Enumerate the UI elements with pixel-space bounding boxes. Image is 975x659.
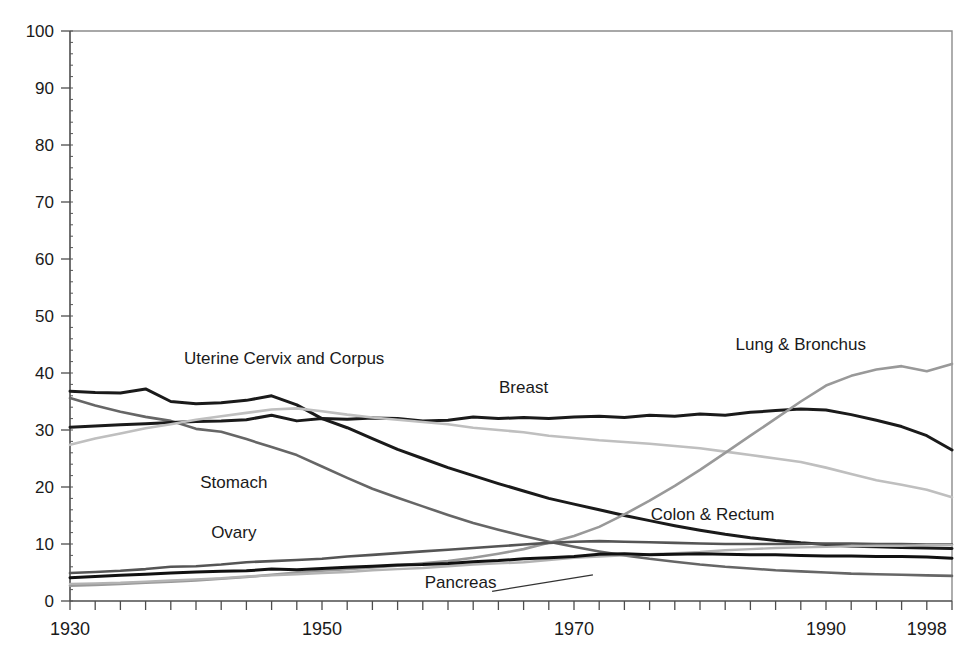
y-tick-label-100: 100	[26, 22, 54, 41]
y-tick-label-0: 0	[45, 592, 54, 611]
plot-frame	[70, 31, 952, 601]
y-tick-label-30: 30	[35, 421, 54, 440]
series-label-stomach: Stomach	[200, 473, 267, 492]
y-tick-label-40: 40	[35, 364, 54, 383]
series-label-ovary: Ovary	[211, 523, 257, 542]
y-tick-label-70: 70	[35, 193, 54, 212]
y-tick-label-10: 10	[35, 535, 54, 554]
y-tick-label-80: 80	[35, 136, 54, 155]
series-label-uterine-cervix-and-corpus: Uterine Cervix and Corpus	[184, 349, 384, 368]
y-tick-label-90: 90	[35, 79, 54, 98]
x-tick-label-1990: 1990	[806, 619, 846, 639]
chart-svg: 0102030405060708090100193019501970199019…	[0, 0, 975, 659]
series-label-lung-bronchus: Lung & Bronchus	[736, 335, 866, 354]
series-line-uterine-cervix-and-corpus	[70, 389, 952, 549]
series-label-colon-rectum: Colon & Rectum	[651, 505, 775, 524]
pancreas-leader	[492, 575, 593, 592]
x-tick-label-1950: 1950	[302, 619, 342, 639]
x-tick-label-1998: 1998	[907, 619, 947, 639]
series-label-pancreas: Pancreas	[425, 573, 497, 592]
y-tick-label-50: 50	[35, 307, 54, 326]
cancer-mortality-line-chart: 0102030405060708090100193019501970199019…	[0, 0, 975, 659]
series-label-breast: Breast	[499, 378, 548, 397]
x-tick-label-1930: 1930	[50, 619, 90, 639]
x-tick-label-1970: 1970	[554, 619, 594, 639]
y-tick-label-60: 60	[35, 250, 54, 269]
y-tick-label-20: 20	[35, 478, 54, 497]
